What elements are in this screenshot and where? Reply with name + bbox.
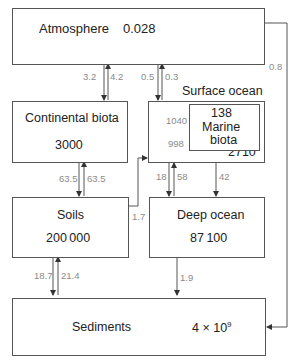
flux-atm-to-cont: 3.2 xyxy=(83,71,96,82)
soils-value: 200 000 xyxy=(46,231,90,245)
flux-deep-to-sed: 1.9 xyxy=(180,272,193,283)
flux-marine-to-surf: 1040 xyxy=(166,115,187,126)
marine-biota-label-2: biota xyxy=(210,133,237,147)
flux-deep-to-surf: 58 xyxy=(177,171,188,182)
deep-ocean-value: 87 100 xyxy=(190,231,227,245)
continental-biota-label: Continental biota xyxy=(25,111,119,125)
sediments-box: Sediments 4 × 109 xyxy=(12,298,266,356)
deep-ocean-label: Deep ocean xyxy=(177,208,244,222)
flux-sed-to-soil: 21.4 xyxy=(61,270,80,281)
flux-surf-to-atm: 0.3 xyxy=(165,71,178,82)
soils-label: Soils xyxy=(57,208,84,222)
continental-biota-value: 3000 xyxy=(55,138,83,152)
atmosphere-label: Atmosphere xyxy=(39,21,109,36)
flux-soil-to-sed: 18.7 xyxy=(34,270,53,281)
flux-soil-to-cont: 63.5 xyxy=(87,173,106,184)
marine-biota-label-1: Marine xyxy=(202,120,240,134)
flux-soil-to-surf: 1.7 xyxy=(132,211,145,222)
flux-atm-to-sed: 0.8 xyxy=(269,61,282,72)
marine-biota-value: 138 xyxy=(211,106,232,120)
deep-ocean-box: Deep ocean 87 100 xyxy=(149,197,265,258)
sediments-value: 4 × 109 xyxy=(192,320,232,335)
flux-surf-to-deep-2: 42 xyxy=(219,171,230,182)
flux-cont-to-soil: 63.5 xyxy=(59,173,78,184)
flux-surf-to-marine: 998 xyxy=(168,138,184,149)
flux-cont-to-atm: 4.2 xyxy=(110,71,123,82)
surface-ocean-label: Surface ocean xyxy=(182,84,263,98)
continental-biota-box: Continental biota 3000 xyxy=(12,101,128,163)
soils-box: Soils 200 000 xyxy=(12,197,129,258)
atmosphere-box: Atmosphere 0.028 xyxy=(12,8,265,65)
flux-surf-to-deep: 18 xyxy=(156,171,167,182)
sediments-label: Sediments xyxy=(72,320,131,334)
flux-atm-to-surf: 0.5 xyxy=(141,71,154,82)
marine-biota-box: 138 Marine biota xyxy=(189,104,260,151)
atmosphere-value: 0.028 xyxy=(123,21,156,36)
